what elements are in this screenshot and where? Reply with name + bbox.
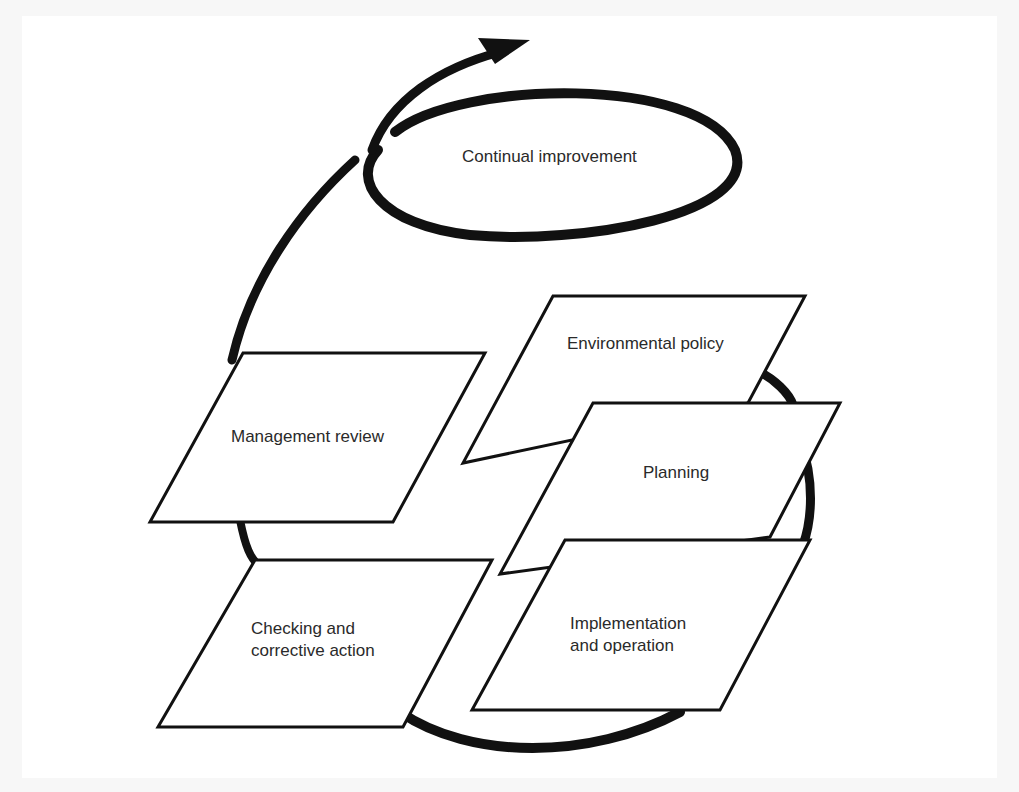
implementation-label-line1: Implementation (570, 613, 686, 635)
management-review-label: Management review (231, 426, 384, 448)
continual-improvement-label: Continual improvement (462, 146, 637, 168)
checking-label-line2: corrective action (251, 640, 375, 662)
cycle-diagram (0, 0, 1019, 792)
implementation-label-line2: and operation (570, 635, 674, 657)
checking-label-line1: Checking and (251, 618, 355, 640)
environmental-policy-label: Environmental policy (567, 333, 724, 355)
planning-label: Planning (643, 462, 709, 484)
continual-improvement-ellipse (368, 52, 737, 237)
